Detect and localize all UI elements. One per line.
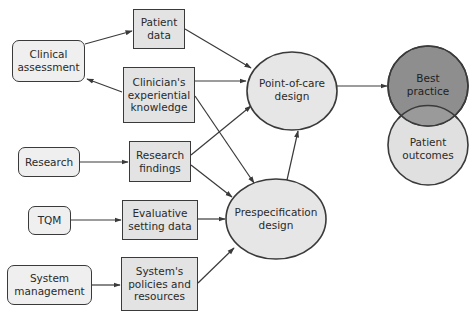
- prespecification-label: Prespecification design: [226, 189, 326, 249]
- research-findings-node: Research findings: [129, 141, 191, 182]
- edge-clinical-to-patient-data: [85, 31, 132, 44]
- system-management-node: System management: [7, 265, 92, 305]
- patient-data-node: Patient data: [133, 9, 185, 49]
- edge-prespec-to-poc: [287, 131, 298, 180]
- research-node: Research: [18, 147, 80, 177]
- systems-policies-node: System's policies and resources: [121, 257, 198, 311]
- edge-clinician-to-clinical: [87, 79, 122, 92]
- diagram-canvas: Clinical assessment Research TQM System …: [0, 0, 476, 313]
- edge-patient-data-to-poc: [185, 29, 251, 68]
- edge-policies-to-prespec: [198, 248, 234, 283]
- point-of-care-label: Point-of-care design: [247, 60, 337, 120]
- edge-findings-to-poc: [191, 106, 251, 155]
- clinical-assessment-node: Clinical assessment: [12, 40, 85, 82]
- tqm-node: TQM: [28, 206, 71, 235]
- evaluative-setting-data-node: Evaluative setting data: [122, 200, 198, 240]
- best-practice-label: Best practice: [393, 62, 463, 108]
- edge-clinician-to-prespec: [195, 96, 254, 183]
- clinicians-knowledge-node: Clinician's experiential knowledge: [123, 67, 195, 123]
- patient-outcomes-label: Patient outcomes: [393, 126, 463, 172]
